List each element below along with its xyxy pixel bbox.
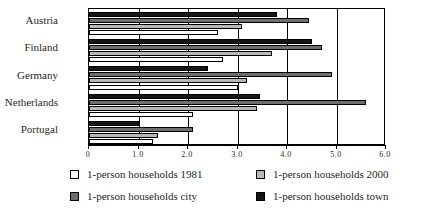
x-tick [336,145,337,149]
bar [89,51,272,56]
bar [89,72,332,77]
bar [89,100,366,105]
chart-legend: 1-person households 19811-person househo… [70,168,430,212]
bar [89,112,193,117]
x-tick [286,145,287,149]
legend-item: 1-person households city [70,190,197,202]
bar-group [89,9,384,36]
bar [89,30,218,35]
bar [89,94,260,99]
bar-group [89,64,384,91]
category-label: Austria [0,14,58,26]
legend-swatch-icon [256,170,265,179]
category-label: Portugal [0,123,58,135]
bar [89,127,193,132]
x-tick-label: 6.0 [379,150,391,159]
legend-label: 1-person households 1981 [87,168,203,180]
x-tick-label: 0 [86,150,91,159]
bar [89,133,158,138]
bar [89,85,238,90]
bar [89,12,277,17]
x-tick-label: 2.0 [181,150,193,159]
bar [89,106,257,111]
plot-area [88,8,385,145]
category-label: Netherlands [0,96,58,108]
legend-label: 1-person households town [273,190,389,202]
category-label: Germany [0,69,58,81]
legend-swatch-icon [70,170,79,179]
legend-label: 1-person households 2000 [273,168,389,180]
legend-item: 1-person households 2000 [256,168,389,180]
bar [89,66,208,71]
bar-group [89,36,384,63]
x-tick-label: 3.0 [231,150,243,159]
legend-item: 1-person households town [256,190,389,202]
x-tick [138,145,139,149]
legend-item: 1-person households 1981 [70,168,203,180]
legend-swatch-icon [70,192,79,201]
x-tick [237,145,238,149]
bar [89,39,312,44]
bar-group [89,119,384,146]
category-label: Finland [0,41,58,53]
legend-label: 1-person households city [87,190,197,202]
bar [89,139,153,144]
bar [89,18,309,23]
bar [89,24,242,29]
x-tick [385,145,386,149]
x-tick-label: 4.0 [280,150,292,159]
bar [89,78,247,83]
x-tick [187,145,188,149]
bar-chart-figure: AustriaFinlandGermanyNetherlandsPortugal… [0,0,438,219]
x-tick-label: 5.0 [330,150,342,159]
bar [89,121,139,126]
bar [89,57,223,62]
legend-swatch-icon [256,192,265,201]
bar [89,45,322,50]
bar-group [89,91,384,118]
x-tick-label: 1.0 [132,150,144,159]
x-tick [88,145,89,149]
